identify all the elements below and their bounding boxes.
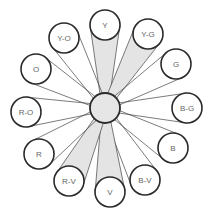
color-node-g: G bbox=[161, 49, 191, 79]
node-label: G bbox=[173, 60, 179, 69]
node-label: O bbox=[33, 65, 39, 74]
color-node-y: Y bbox=[90, 10, 120, 40]
color-node-o: O bbox=[21, 54, 51, 84]
node-label: B-V bbox=[138, 176, 152, 185]
color-node-b-v: B-V bbox=[130, 165, 160, 195]
color-node-y-g: Y-G bbox=[133, 19, 163, 49]
color-node-r: R bbox=[24, 139, 54, 169]
color-node-b-g: B-G bbox=[172, 93, 202, 123]
node-label: Y bbox=[102, 21, 108, 30]
node-label: R bbox=[36, 150, 42, 159]
color-node-v: V bbox=[95, 177, 125, 207]
node-label: Y-G bbox=[141, 30, 155, 39]
node-label: Y-O bbox=[57, 34, 71, 43]
node-label: B bbox=[170, 144, 175, 153]
node-label: R-V bbox=[62, 177, 76, 186]
node-label: R-O bbox=[19, 108, 34, 117]
node-label: V bbox=[107, 188, 113, 197]
color-node-y-o: Y-O bbox=[49, 23, 79, 53]
node-label: B-G bbox=[180, 104, 194, 113]
center-hub bbox=[90, 93, 120, 123]
color-node-r-v: R-V bbox=[54, 166, 84, 196]
color-node-r-o: R-O bbox=[11, 97, 41, 127]
color-wheel-diagram: YY-GGB-GBB-VVR-VRR-OOY-O bbox=[0, 0, 217, 219]
color-node-b: B bbox=[158, 133, 188, 163]
